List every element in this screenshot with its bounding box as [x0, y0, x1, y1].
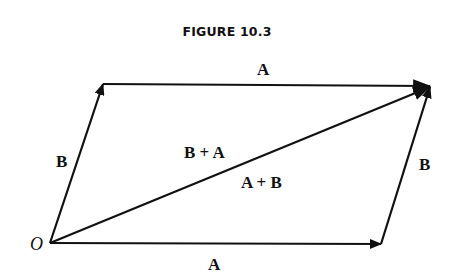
vector-a-top [103, 84, 430, 86]
origin-label: O [30, 234, 43, 254]
diagonal-lower-label: A + B [241, 173, 282, 192]
bottom-vector-label: A [208, 255, 221, 274]
top-vector-label: A [257, 60, 270, 79]
vector-parallelogram-diagram: O A A B B B + A A + B [0, 0, 454, 278]
vector-a-bottom [50, 243, 381, 244]
vector-resultant-diagonal [50, 87, 430, 243]
diagonal-upper-label: B + A [184, 143, 226, 162]
right-vector-label: B [419, 155, 430, 174]
left-vector-label: B [56, 152, 67, 171]
